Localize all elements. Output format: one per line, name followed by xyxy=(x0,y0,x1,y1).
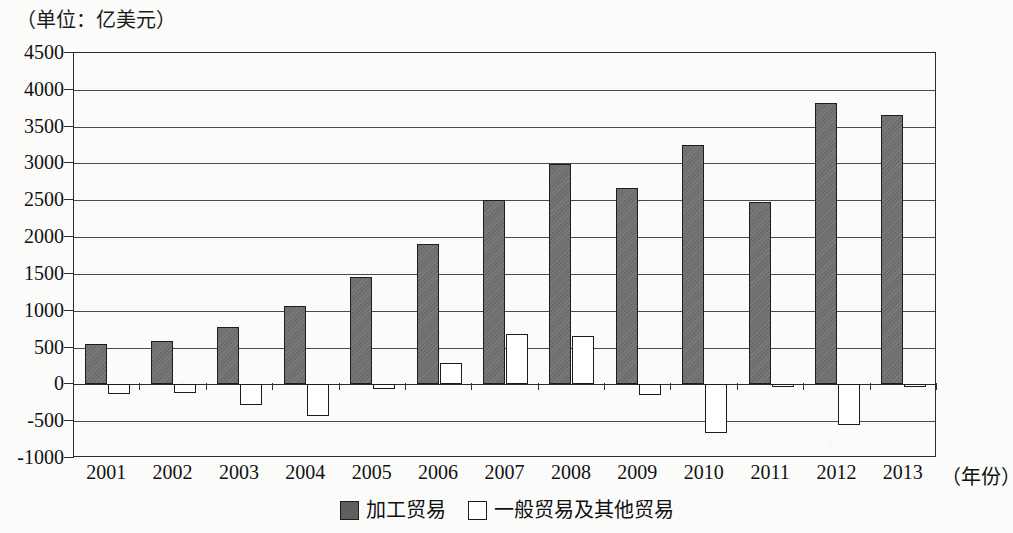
y-tick-label: 0 xyxy=(0,373,64,393)
gridline xyxy=(74,163,935,164)
x-tick-label: 2009 xyxy=(602,461,672,484)
bar-chart: （单位：亿美元） 4500400035003000250020001500100… xyxy=(0,0,1013,533)
bar-2011-series2 xyxy=(772,384,794,387)
bar-2005-series1 xyxy=(350,277,372,384)
bar-2005-series2 xyxy=(373,384,395,388)
x-tick-label: 2008 xyxy=(536,461,606,484)
x-tick-mark xyxy=(803,383,804,390)
legend-swatch-dark xyxy=(340,501,359,520)
legend-swatch-light xyxy=(468,501,487,520)
bar-2013-series2 xyxy=(904,384,926,387)
legend-entry-1: 加工贸易 xyxy=(340,500,446,520)
x-tick-mark xyxy=(272,383,273,390)
x-tick-mark xyxy=(538,383,539,390)
bar-2003-series2 xyxy=(240,384,262,405)
x-tick-mark xyxy=(870,383,871,390)
y-tick-label: 500 xyxy=(0,337,64,357)
legend-entry-2: 一般贸易及其他贸易 xyxy=(468,500,674,520)
y-tick-label: 1500 xyxy=(0,263,64,283)
x-tick-label: 2001 xyxy=(71,461,141,484)
bar-2008-series1 xyxy=(549,164,571,384)
bar-2002-series2 xyxy=(174,384,196,393)
y-tick-label: -500 xyxy=(0,410,64,430)
gridline xyxy=(74,384,935,385)
x-tick-label: 2010 xyxy=(669,461,739,484)
x-tick-mark xyxy=(670,383,671,390)
x-tick-mark xyxy=(73,383,74,390)
bar-2002-series1 xyxy=(151,341,173,385)
bar-2007-series1 xyxy=(483,200,505,384)
bar-2006-series2 xyxy=(440,363,462,384)
bar-2003-series1 xyxy=(217,327,239,385)
bar-2001-series2 xyxy=(108,384,130,394)
x-tick-label: 2003 xyxy=(204,461,274,484)
x-tick-mark xyxy=(405,383,406,390)
y-tick-label: 4500 xyxy=(0,42,64,62)
legend-label: 一般贸易及其他贸易 xyxy=(494,500,674,520)
y-tick-label: 3000 xyxy=(0,152,64,172)
gridline xyxy=(74,421,935,422)
bar-2012-series2 xyxy=(838,384,860,425)
bar-2009-series2 xyxy=(639,384,661,395)
x-tick-label: 2005 xyxy=(337,461,407,484)
x-axis-title: （年份） xyxy=(941,461,1013,490)
y-tick-label: 4000 xyxy=(0,79,64,99)
y-tick-label: 2000 xyxy=(0,226,64,246)
x-tick-label: 2006 xyxy=(403,461,473,484)
x-tick-mark xyxy=(471,383,472,390)
y-tick-label: 3500 xyxy=(0,116,64,136)
y-tick-label: 1000 xyxy=(0,300,64,320)
x-tick-label: 2013 xyxy=(868,461,938,484)
bar-2010-series2 xyxy=(705,384,727,433)
bar-2008-series2 xyxy=(572,336,594,384)
y-tick-label: -1000 xyxy=(0,447,64,467)
y-tick-mark xyxy=(64,457,74,458)
bar-2012-series1 xyxy=(815,103,837,385)
bar-2013-series1 xyxy=(881,115,903,384)
bar-2011-series1 xyxy=(749,202,771,385)
x-tick-mark xyxy=(604,383,605,390)
bar-2004-series2 xyxy=(307,384,329,416)
bar-2010-series1 xyxy=(682,145,704,384)
x-tick-mark xyxy=(339,383,340,390)
bar-2006-series1 xyxy=(417,244,439,384)
x-tick-label: 2004 xyxy=(270,461,340,484)
y-tick-label: 2500 xyxy=(0,189,64,209)
y-axis-labels: 450040003500300025002000150010005000-500… xyxy=(0,0,68,533)
gridline xyxy=(74,127,935,128)
x-tick-label: 2012 xyxy=(801,461,871,484)
gridline xyxy=(74,90,935,91)
x-tick-label: 2011 xyxy=(735,461,805,484)
legend-label: 加工贸易 xyxy=(366,500,446,520)
plot-area xyxy=(73,52,936,457)
bar-2004-series1 xyxy=(284,306,306,385)
chart-legend: 加工贸易一般贸易及其他贸易 xyxy=(0,500,1013,520)
x-tick-mark xyxy=(936,383,937,390)
x-tick-mark xyxy=(139,383,140,390)
bar-2009-series1 xyxy=(616,188,638,384)
bar-2007-series2 xyxy=(506,334,528,385)
x-tick-label: 2002 xyxy=(138,461,208,484)
x-tick-label: 2007 xyxy=(470,461,540,484)
bar-2001-series1 xyxy=(85,344,107,385)
x-tick-mark xyxy=(206,383,207,390)
x-tick-mark xyxy=(737,383,738,390)
